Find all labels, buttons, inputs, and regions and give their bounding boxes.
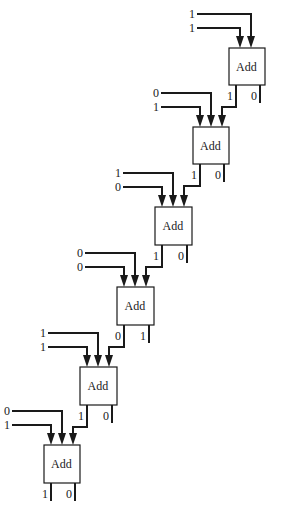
arrowhead-icon [247, 36, 255, 48]
input-label-b: 1 [4, 418, 10, 432]
adder-label: Add [88, 379, 109, 393]
carry-out-label: 1 [153, 249, 159, 263]
arrowhead-icon [196, 115, 204, 127]
carry-out-label: 1 [78, 409, 84, 423]
arrowhead-icon [131, 275, 139, 287]
input-wire-a [123, 173, 173, 196]
arrowhead-icon [207, 115, 215, 127]
adder-label: Add [236, 60, 257, 74]
input-label-a: 0 [4, 404, 10, 418]
arrowhead-icon [142, 275, 150, 287]
adder-chain-diagram: 11Add1001Add1010Add1000Add0111Add1001Add… [0, 0, 283, 526]
input-label-b: 1 [153, 100, 159, 114]
adder-stage: 10Add10 [115, 164, 200, 263]
arrowhead-icon [94, 355, 102, 367]
adder-stage: 11Add10 [40, 325, 124, 423]
input-label-a: 0 [153, 86, 159, 100]
input-label-a: 0 [77, 246, 83, 260]
adder-stage: 01Add10 [153, 85, 236, 182]
input-label-b: 1 [189, 21, 195, 35]
adder-label: Add [200, 139, 221, 153]
arrowhead-icon [120, 275, 128, 287]
adder-label: Add [125, 299, 146, 313]
sum-label: 0 [103, 409, 109, 423]
input-wire-b [85, 267, 124, 276]
arrowhead-icon [169, 195, 177, 207]
input-label-b: 0 [77, 260, 83, 274]
input-wire-a [12, 411, 62, 434]
sum-label: 0 [215, 168, 221, 182]
sum-label: 0 [251, 89, 257, 103]
arrowhead-icon [105, 355, 113, 367]
input-wire-a [197, 14, 251, 37]
input-wire-a [161, 93, 211, 116]
sum-label: 0 [66, 487, 72, 501]
sum-label: 1 [140, 329, 146, 343]
adder-label: Add [51, 457, 72, 471]
carry-out-label: 0 [115, 329, 121, 343]
input-wire-b [12, 425, 51, 434]
input-wire-a [85, 253, 135, 276]
input-wire-b [123, 187, 162, 196]
adder-stage: 01Add10 [4, 404, 87, 501]
arrowhead-icon [236, 36, 244, 48]
carry-out-label: 1 [42, 487, 48, 501]
adder-label: Add [163, 219, 184, 233]
input-wire-b [48, 347, 87, 356]
arrowhead-icon [58, 433, 66, 445]
arrowhead-icon [158, 195, 166, 207]
arrowhead-icon [218, 115, 226, 127]
input-wire-b [197, 28, 240, 37]
input-label-b: 0 [115, 180, 121, 194]
sum-label: 0 [178, 249, 184, 263]
carry-out-label: 1 [227, 89, 233, 103]
adder-stage: 11Add10 [189, 7, 265, 103]
arrowhead-icon [69, 433, 77, 445]
input-wire-a [48, 333, 98, 356]
input-label-a: 1 [40, 326, 46, 340]
input-label-b: 1 [40, 340, 46, 354]
carry-out-label: 1 [191, 168, 197, 182]
arrowhead-icon [83, 355, 91, 367]
adder-stage: 00Add01 [77, 245, 162, 343]
arrowhead-icon [47, 433, 55, 445]
input-wire-b [161, 107, 200, 116]
arrowhead-icon [180, 195, 188, 207]
input-label-a: 1 [115, 166, 121, 180]
input-label-a: 1 [189, 7, 195, 21]
